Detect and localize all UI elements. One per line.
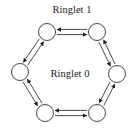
ringlet-0-link xyxy=(28,42,44,65)
ringlet-0-link xyxy=(99,42,110,66)
ringlet-0-label: Ringlet 0 xyxy=(51,68,90,79)
node-top-right xyxy=(89,24,106,41)
node-bottom-left xyxy=(37,105,54,122)
ringlet-1-link xyxy=(23,82,38,106)
ringlet-0-link xyxy=(27,79,42,103)
node-right xyxy=(109,66,126,83)
ring-diagram: Ringlet 1 Ringlet 0 xyxy=(0,0,137,135)
ringlet-1-link xyxy=(104,84,115,105)
ringlet-0-link xyxy=(99,82,110,103)
node-left xyxy=(12,64,29,81)
ringlet-1-link xyxy=(23,39,39,63)
node-bottom-right xyxy=(89,105,106,122)
ringlet-1-link xyxy=(104,40,115,64)
node-top-left xyxy=(39,24,56,41)
ringlet-1-label: Ringlet 1 xyxy=(53,4,92,15)
